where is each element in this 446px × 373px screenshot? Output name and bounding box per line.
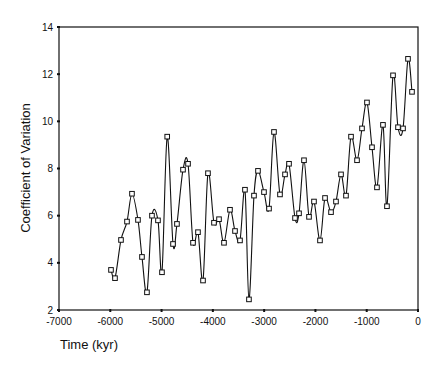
data-point-marker xyxy=(201,278,206,283)
data-point-marker xyxy=(119,238,124,243)
data-point-marker xyxy=(318,238,323,243)
x-tick-mark xyxy=(417,309,419,312)
data-point-marker xyxy=(339,172,344,177)
x-tick-label: -4000 xyxy=(200,316,226,327)
y-tick-label: 14 xyxy=(42,22,54,33)
data-point-marker xyxy=(243,187,248,192)
x-tick-mark xyxy=(366,309,368,312)
x-tick-mark xyxy=(58,309,60,312)
y-tick-label: 12 xyxy=(42,69,54,80)
line-chart: 2468101214 -7000-6000-5000-4000-3000-200… xyxy=(0,0,446,373)
data-point-marker xyxy=(212,220,217,225)
data-point-marker xyxy=(113,276,118,281)
data-point-marker xyxy=(381,123,386,128)
data-point-marker xyxy=(302,158,307,163)
y-tick-mark xyxy=(57,262,60,264)
data-point-marker xyxy=(365,100,370,105)
data-point-marker xyxy=(323,196,328,201)
data-point-marker xyxy=(136,218,141,223)
x-tick-mark xyxy=(263,309,265,312)
data-point-marker xyxy=(156,218,161,223)
x-tick-label: 0 xyxy=(415,316,421,327)
data-point-marker xyxy=(262,190,267,195)
x-axis-ticks: -7000-6000-5000-4000-3000-2000-10000 xyxy=(46,309,421,327)
y-tick-mark xyxy=(57,26,60,28)
data-point-marker xyxy=(391,73,396,78)
data-point-marker xyxy=(349,134,354,139)
data-point-marker xyxy=(396,125,401,130)
x-axis-title: Time (kyr) xyxy=(60,337,118,352)
y-axis-ticks: 2468101214 xyxy=(42,22,60,316)
data-point-marker xyxy=(125,219,130,224)
data-point-marker xyxy=(375,185,380,190)
data-point-marker xyxy=(145,290,150,295)
data-point-marker xyxy=(181,167,186,172)
data-point-marker xyxy=(186,161,191,166)
y-tick-mark xyxy=(57,168,60,170)
data-point-marker xyxy=(171,242,176,247)
y-tick-label: 6 xyxy=(47,210,53,221)
x-tick-label: -6000 xyxy=(97,316,123,327)
data-point-marker xyxy=(344,193,349,198)
data-point-marker xyxy=(293,216,298,221)
y-tick-mark xyxy=(57,73,60,75)
x-tick-mark xyxy=(212,309,214,312)
data-point-marker xyxy=(355,158,360,163)
data-point-marker xyxy=(233,229,238,234)
x-tick-mark xyxy=(161,309,163,312)
x-tick-label: -7000 xyxy=(46,316,72,327)
data-point-marker xyxy=(283,172,288,177)
data-point-marker xyxy=(109,268,114,273)
data-point-marker xyxy=(217,217,222,222)
y-axis-title: Coefficient of Variation xyxy=(18,103,33,233)
data-point-marker xyxy=(370,145,375,150)
x-tick-label: -5000 xyxy=(149,316,175,327)
data-point-marker xyxy=(238,238,243,243)
data-point-marker xyxy=(222,240,227,245)
data-point-marker xyxy=(140,255,145,260)
y-tick-mark xyxy=(57,215,60,217)
data-point-marker xyxy=(278,192,283,197)
data-point-marker xyxy=(410,90,415,95)
data-point-marker xyxy=(150,213,155,218)
y-tick-label: 2 xyxy=(47,305,53,316)
data-point-marker xyxy=(165,134,170,139)
data-point-marker xyxy=(191,240,196,245)
data-point-marker xyxy=(206,171,211,176)
data-point-marker xyxy=(360,126,365,131)
data-line xyxy=(111,58,412,299)
x-tick-mark xyxy=(314,309,316,312)
data-point-marker xyxy=(272,130,277,135)
data-point-marker xyxy=(329,210,334,215)
data-point-marker xyxy=(406,57,411,62)
data-point-marker xyxy=(256,169,261,174)
data-point-marker xyxy=(307,215,312,220)
data-point-marker xyxy=(401,126,406,131)
data-point-marker xyxy=(334,199,339,204)
data-point-marker xyxy=(252,193,257,198)
data-point-marker xyxy=(267,206,272,211)
data-point-marker xyxy=(228,207,233,212)
data-point-marker xyxy=(312,199,317,204)
data-point-marker xyxy=(175,222,180,227)
data-point-marker xyxy=(247,297,252,302)
data-point-marker xyxy=(385,204,390,209)
y-tick-label: 8 xyxy=(47,163,53,174)
x-tick-mark xyxy=(109,309,111,312)
data-point-marker xyxy=(287,161,292,166)
y-tick-label: 4 xyxy=(47,257,53,268)
data-point-marker xyxy=(130,191,135,196)
x-tick-label: -3000 xyxy=(251,316,277,327)
y-tick-mark xyxy=(57,120,60,122)
data-point-marker xyxy=(297,211,302,216)
data-point-marker xyxy=(160,270,165,275)
x-tick-label: -1000 xyxy=(354,316,380,327)
data-point-marker xyxy=(196,230,201,235)
x-tick-label: -2000 xyxy=(303,316,329,327)
y-tick-label: 10 xyxy=(42,116,54,127)
